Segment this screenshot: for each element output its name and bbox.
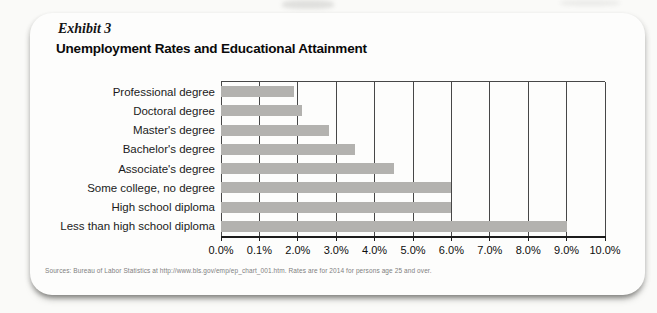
bar <box>221 163 394 174</box>
exhibit-label: Exhibit 3 <box>58 21 111 37</box>
bar-row <box>221 140 605 159</box>
category-label: Associate's degree <box>15 159 215 178</box>
bar <box>221 144 355 155</box>
bar <box>221 182 451 193</box>
axis-tickmark <box>297 236 298 241</box>
bar <box>221 86 294 97</box>
bar-row <box>221 121 605 140</box>
category-label: Bachelor's degree <box>15 140 215 159</box>
x-tick-label: 8.0% <box>516 244 541 256</box>
axis-tickmark <box>374 236 375 241</box>
x-tick-label: 2.0% <box>285 244 310 256</box>
x-tick-label: 0.1% <box>247 244 272 256</box>
bar-row <box>221 217 605 236</box>
axis-tickmark <box>566 236 567 241</box>
category-label: Doctoral degree <box>15 101 215 120</box>
x-tick-label: 6.0% <box>439 244 464 256</box>
x-tick-label: 9.0% <box>554 244 579 256</box>
axis-tickmark <box>451 236 452 241</box>
bar-row <box>221 159 605 178</box>
axis-tickmark <box>221 236 222 241</box>
bar <box>221 202 451 213</box>
axis-tickmark <box>336 236 337 241</box>
axis-tickmark <box>528 236 529 241</box>
x-tick-label: 0.0% <box>208 244 233 256</box>
x-tick-label: 4.0% <box>362 244 387 256</box>
bar-row <box>221 82 605 101</box>
page-artifact-smudge <box>560 0 620 6</box>
axis-tickmark <box>259 236 260 241</box>
category-label: Less than high school diploma <box>15 217 215 236</box>
bar <box>221 221 567 232</box>
category-label: Master's degree <box>15 121 215 140</box>
axis-tickmark <box>489 236 490 241</box>
category-label: Some college, no degree <box>15 178 215 197</box>
bar-row <box>221 178 605 197</box>
x-tick-label: 7.0% <box>477 244 502 256</box>
x-tick-label: 3.0% <box>324 244 349 256</box>
bar-row <box>221 198 605 217</box>
category-label: Professional degree <box>15 82 215 101</box>
category-label: High school diploma <box>15 198 215 217</box>
source-note: Sources: Bureau of Labor Statistics at h… <box>45 267 432 274</box>
axis-tickmark <box>413 236 414 241</box>
bar <box>221 125 329 136</box>
x-tick-label: 10.0% <box>589 244 620 256</box>
exhibit-card: Exhibit 3 Unemployment Rates and Educati… <box>30 13 645 295</box>
page-artifact-smudge <box>282 0 334 9</box>
chart-title: Unemployment Rates and Educational Attai… <box>56 41 367 56</box>
axis-tickmark <box>605 236 606 241</box>
x-tick-label: 5.0% <box>400 244 425 256</box>
category-labels: Professional degreeDoctoral degreeMaster… <box>21 82 221 236</box>
bar-row <box>221 101 605 120</box>
plot-area: Professional degreeDoctoral degreeMaster… <box>221 81 605 238</box>
bar <box>221 105 302 116</box>
